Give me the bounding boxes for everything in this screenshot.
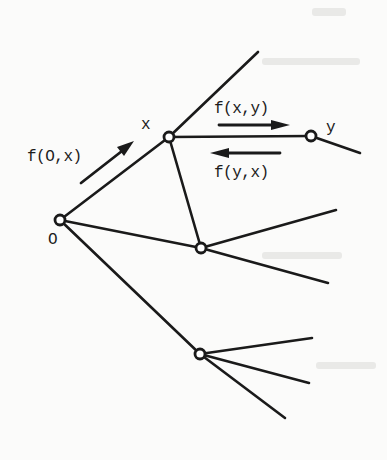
node-label-x: x [141,117,150,133]
arrowhead-icon [210,148,229,158]
node-l [195,349,205,359]
arrowhead-icon [271,120,290,130]
flow-arrow-x-y [219,120,290,130]
tree-diagram [0,0,387,460]
edge-l-branch-1 [200,338,312,354]
node-o [55,215,65,225]
node-m [196,243,206,253]
flow-label-o-x: f(O,x) [27,149,82,165]
flow-label-x-y: f(x,y) [214,101,269,117]
edge-x-m [169,137,201,248]
node-label-o: O [48,232,57,248]
paper-texture [262,8,376,369]
edge-y-branch [311,136,360,153]
flow-arrow-o-x [81,141,134,183]
edge-o-m [60,220,201,248]
flow-label-y-x: f(y,x) [214,165,269,181]
edge-o-l [60,220,200,354]
node-x [164,132,174,142]
edge-l-branch-2 [200,354,309,383]
edge-l-branch-3 [200,354,285,418]
edge-m-upper-branch [201,210,336,248]
edge-x-y [169,136,311,137]
node-y [306,131,316,141]
flow-arrow-y-x [210,148,280,158]
node-label-y: y [326,120,335,136]
edges [60,52,360,418]
